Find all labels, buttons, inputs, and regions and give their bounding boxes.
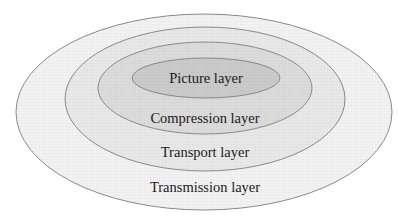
label-picture: Picture layer (169, 70, 243, 86)
label-transmission: Transmission layer (150, 179, 260, 195)
label-transport: Transport layer (161, 144, 250, 160)
label-compression: Compression layer (150, 110, 259, 126)
layer-diagram: Picture layer Compression layer Transpor… (0, 0, 409, 220)
